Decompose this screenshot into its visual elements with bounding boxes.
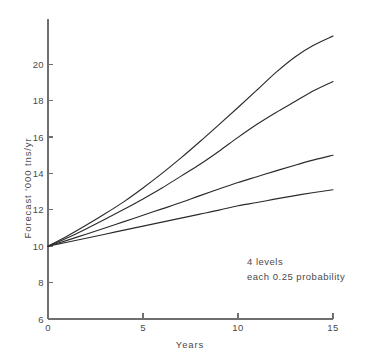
x-tick-label-5: 5	[140, 322, 146, 333]
y-axis-tick-labels: 6 8 10 12 14 16 18 20	[33, 59, 44, 325]
forecast-fan-chart: 6 8 10 12 14 16 18 20 0 5 10 15 Years Fo…	[0, 0, 376, 359]
chart-canvas: 6 8 10 12 14 16 18 20 0 5 10 15 Years Fo…	[0, 0, 376, 359]
y-tick-label-10: 10	[33, 241, 44, 252]
annotation-level-probability: each 0.25 probability	[247, 271, 345, 282]
series-line-level-4-lowest	[48, 190, 333, 246]
y-tick-label-8: 8	[38, 277, 44, 288]
x-tick-label-15: 15	[327, 322, 338, 333]
x-axis-title: Years	[176, 339, 204, 350]
annotation-levels-count: 4 levels	[247, 256, 283, 267]
x-tick-label-0: 0	[45, 322, 51, 333]
series-line-level-1-highest	[48, 36, 333, 246]
series-group	[48, 36, 333, 246]
chart-annotations: 4 levels each 0.25 probability	[247, 256, 345, 282]
series-line-level-2	[48, 81, 333, 246]
x-tick-label-10: 10	[232, 322, 243, 333]
y-tick-label-14: 14	[33, 168, 44, 179]
y-tick-label-6: 6	[38, 314, 44, 325]
y-axis-title: Forecast '000 tns/yr	[22, 137, 33, 238]
y-tick-label-12: 12	[33, 204, 44, 215]
y-tick-label-18: 18	[33, 95, 44, 106]
y-axis-ticks	[48, 64, 53, 319]
series-line-level-3	[48, 155, 333, 246]
y-tick-label-16: 16	[33, 132, 44, 143]
x-axis-ticks	[48, 313, 333, 319]
x-axis-tick-labels: 0 5 10 15	[45, 322, 339, 333]
y-tick-label-20: 20	[33, 59, 44, 70]
